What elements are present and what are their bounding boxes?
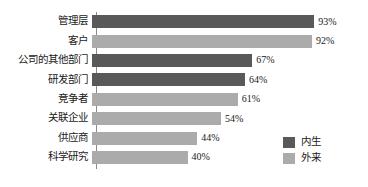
- bar-track: 54%: [92, 109, 368, 128]
- bar-track: 92%: [92, 31, 368, 50]
- chart-legend: 内生外来: [283, 136, 321, 164]
- category-label: 科学研究: [0, 152, 92, 163]
- bar-track: 64%: [92, 70, 368, 89]
- bar-track: 40%: [92, 148, 368, 167]
- bar-external: [92, 112, 221, 125]
- bar-track: 93%: [92, 12, 368, 31]
- bar-track: 44%: [92, 128, 368, 147]
- category-label: 关联企业: [0, 113, 92, 124]
- bar-row: 客户92%: [0, 31, 368, 50]
- bar-external: [92, 151, 188, 164]
- bar-external: [92, 35, 312, 48]
- bar-row: 公司的其他部门67%: [0, 51, 368, 70]
- bar-chart: 管理层93%客户92%公司的其他部门67%研发部门64%竞争者61%关联企业54…: [0, 0, 368, 187]
- category-label: 研发部门: [0, 75, 92, 86]
- category-label: 客户: [0, 36, 92, 47]
- legend-label: 内生: [301, 137, 321, 148]
- bar-track: 67%: [92, 51, 368, 70]
- bar-value-label: 54%: [225, 114, 243, 124]
- legend-item[interactable]: 内生: [283, 136, 321, 148]
- bar-value-label: 40%: [192, 152, 210, 162]
- category-label: 公司的其他部门: [0, 55, 92, 66]
- bar-value-label: 64%: [249, 75, 267, 85]
- bar-value-label: 67%: [256, 55, 274, 65]
- bar-internal: [92, 15, 314, 28]
- bar-external: [92, 93, 238, 106]
- category-label: 竞争者: [0, 94, 92, 105]
- bar-track: 61%: [92, 90, 368, 109]
- bar-value-label: 61%: [242, 94, 260, 104]
- legend-item[interactable]: 外来: [283, 152, 321, 164]
- legend-swatch-icon: [283, 153, 295, 164]
- bar-value-label: 44%: [201, 133, 219, 143]
- category-label: 供应商: [0, 133, 92, 144]
- bar-external: [92, 132, 197, 145]
- bar-row: 管理层93%: [0, 12, 368, 31]
- category-label: 管理层: [0, 16, 92, 27]
- legend-label: 外来: [301, 153, 321, 164]
- bar-row: 关联企业54%: [0, 109, 368, 128]
- legend-swatch-icon: [283, 137, 295, 148]
- bar-value-label: 93%: [318, 17, 336, 27]
- bar-value-label: 92%: [316, 36, 334, 46]
- bar-internal: [92, 73, 245, 86]
- bar-row: 研发部门64%: [0, 70, 368, 89]
- bar-row: 竞争者61%: [0, 90, 368, 109]
- bar-internal: [92, 54, 252, 67]
